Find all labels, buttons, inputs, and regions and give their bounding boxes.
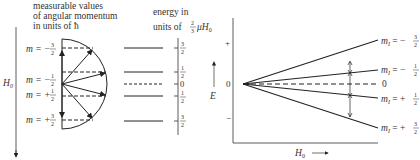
svg-text:1: 1 [414,63,417,69]
svg-text:3: 3 [51,113,54,119]
semicircle [62,39,107,129]
svg-text:1: 1 [51,88,54,94]
mI-label: mI = + [381,123,405,134]
m-label: m = − [26,44,50,54]
svg-text:1: 1 [181,90,184,96]
h0-label: H0 [2,78,13,89]
svg-text:3: 3 [51,42,54,48]
diagram-canvas: measurable values of angular momentum in… [0,0,420,160]
svg-text:2: 2 [51,81,54,87]
svg-text:μH0: μH0 [196,22,212,33]
svg-text:1: 1 [414,92,417,98]
mI-label: mI = − [381,65,405,76]
svg-text:0: 0 [180,79,184,89]
mI-label: mI = + [381,94,405,105]
left-panel: measurable values of angular momentum in… [2,1,118,157]
svg-text:2: 2 [181,49,184,55]
svg-text:2: 2 [51,50,54,56]
svg-text:2: 2 [414,42,417,48]
caption-line-3: in units of ħ [33,21,79,31]
svg-text:2: 2 [181,122,184,128]
nuclear-spin-zeeman-diagram: measurable values of angular momentum in… [0,0,420,160]
right-panel: + 0 − mI = − 3 2 mI = − 1 [225,18,419,159]
svg-text:2: 2 [181,98,184,104]
svg-text:1: 1 [51,73,54,79]
svg-text:1: 1 [181,65,184,71]
m-label: m = + [26,115,50,125]
energy-scale-labels: 3 2 1 2 0 1 2 3 2 [180,41,186,128]
energy-lines [243,40,378,128]
angular-momentum-vectors [62,50,105,118]
svg-text:3: 3 [414,121,417,127]
m-label: m = − [26,75,50,85]
energy-axis-label: E [209,91,216,101]
zero-label: 0 [226,79,231,89]
caption-line-1: measurable values [33,1,103,11]
svg-text:3: 3 [181,41,184,47]
svg-text:3: 3 [191,28,194,34]
zero-line-label: 0 [382,79,387,89]
mI-label: mI = − [381,36,405,47]
svg-text:2: 2 [414,71,417,77]
energy-caption-line-2: units of [153,22,183,32]
svg-text:2: 2 [51,96,54,102]
energy-caption-line-1: energy in [153,7,189,17]
svg-text:2: 2 [414,129,417,135]
svg-text:3: 3 [181,114,184,120]
plus-label: + [225,38,230,48]
svg-text:2: 2 [51,121,54,127]
mI-labels: mI = − 3 2 mI = − 1 2 0 mI = + 1 2 mI = … [381,34,419,135]
m-labels: m = − 3 2 m = − 1 2 m = + 1 2 m = + 3 2 [26,42,56,127]
m-label: m = + [26,90,50,100]
transition-arrows [348,61,352,117]
x-axis-label: H0 [294,148,305,159]
minus-label: − [226,113,231,123]
caption-line-2: of angular momentum [33,11,118,21]
svg-text:2: 2 [191,20,194,26]
middle-panel: energy in units of 2 3 μH0 3 2 1 2 0 [124,7,216,135]
svg-text:2: 2 [414,100,417,106]
svg-text:3: 3 [414,34,417,40]
